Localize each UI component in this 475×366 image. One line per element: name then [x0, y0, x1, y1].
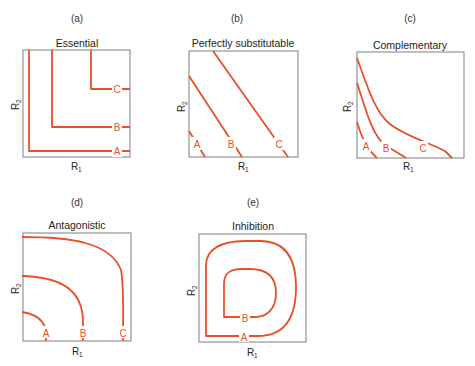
curve-label-b: B — [383, 143, 390, 154]
panel-title: Essential — [56, 37, 99, 49]
panel-title: Antagonistic — [48, 219, 105, 231]
panel-e-inhibition: (e) Inhibition A B R 1 R 2 — [186, 197, 306, 359]
y-axis-label: R 2 — [176, 101, 188, 112]
isocline-b — [224, 269, 276, 317]
resource-isoclines-figure: (a) Essential A B C R 1 R 2 (b) Perfectl… — [0, 0, 475, 366]
plot-frame — [199, 234, 306, 342]
isocline-b — [22, 276, 83, 341]
curve-label-b: B — [228, 139, 235, 150]
x-axis-label: R 1 — [71, 161, 82, 173]
isocline-c — [22, 237, 123, 341]
curve-label-a: A — [241, 332, 248, 343]
isocline-c — [91, 50, 130, 89]
svg-text:1: 1 — [78, 166, 82, 173]
svg-text:2: 2 — [15, 99, 22, 103]
svg-text:2: 2 — [181, 101, 188, 105]
plot-frame — [23, 50, 130, 157]
plot-frame — [357, 52, 464, 158]
curve-label-b: B — [80, 328, 87, 339]
panel-letter: (d) — [71, 197, 83, 208]
svg-text:1: 1 — [410, 166, 414, 173]
isocline-a — [29, 50, 130, 151]
y-axis-label: R 2 — [10, 283, 22, 294]
curve-label-b: B — [242, 313, 249, 324]
svg-text:2: 2 — [15, 283, 22, 287]
y-axis-label: R 2 — [186, 285, 198, 296]
curve-label-c: C — [119, 328, 126, 339]
panel-letter: (e) — [247, 197, 259, 208]
curve-label-a: A — [363, 141, 370, 152]
x-axis-label: R 1 — [238, 161, 249, 173]
panel-letter: (a) — [71, 13, 83, 24]
x-axis-label: R 1 — [72, 346, 83, 358]
panel-a-essential: (a) Essential A B C R 1 R 2 — [10, 13, 130, 173]
curve-label-c: C — [419, 143, 426, 154]
svg-text:2: 2 — [191, 285, 198, 289]
svg-text:1: 1 — [79, 351, 83, 358]
panel-c-complementary: (c) Complementary A B C R 1 R 2 — [342, 13, 464, 173]
panel-title: Perfectly substitutable — [192, 37, 295, 49]
curve-label-c: C — [275, 139, 282, 150]
x-axis-label: R 1 — [247, 347, 258, 359]
curve-label-a: A — [43, 328, 50, 339]
panel-d-antagonistic: (d) Antagonistic A B C R 1 R 2 — [10, 197, 131, 358]
panel-title: Inhibition — [232, 220, 274, 232]
curve-label-a: A — [194, 139, 201, 150]
svg-text:1: 1 — [254, 352, 258, 359]
panel-letter: (c) — [404, 13, 416, 24]
panel-b-perfectly-substitutable: (b) Perfectly substitutable A B C R 1 R … — [176, 13, 298, 173]
panel-letter: (b) — [231, 13, 243, 24]
isocline-c — [357, 58, 452, 158]
isocline-a — [206, 241, 296, 336]
curve-label-a: A — [114, 146, 121, 157]
svg-text:2: 2 — [347, 101, 354, 105]
y-axis-label: R 2 — [10, 99, 22, 110]
panel-title: Complementary — [373, 39, 448, 51]
x-axis-label: R 1 — [403, 161, 414, 173]
y-axis-label: R 2 — [342, 101, 354, 112]
curve-label-b: B — [114, 122, 121, 133]
svg-text:1: 1 — [245, 166, 249, 173]
plot-frame — [23, 233, 131, 341]
curve-label-c: C — [113, 84, 120, 95]
